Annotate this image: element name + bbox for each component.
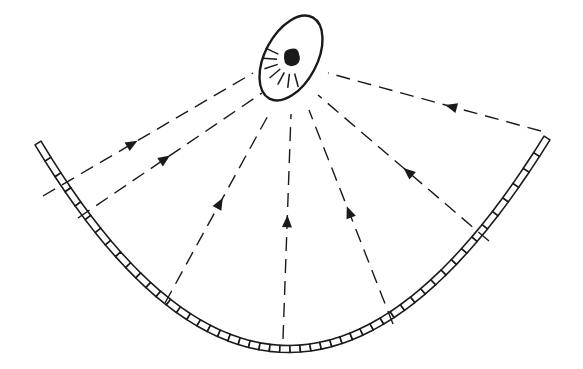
arrow-icon: [445, 103, 458, 113]
source-dash: [270, 69, 281, 78]
reflector-segment: [259, 343, 270, 351]
light-source-icon: [284, 49, 300, 67]
source-dash: [278, 72, 285, 84]
diagram-canvas: [0, 0, 583, 369]
arrow-icon: [125, 141, 138, 151]
reflector-segment: [534, 136, 550, 156]
arrow-icon: [282, 215, 292, 227]
reflector-segment: [290, 345, 300, 352]
reflector-segment: [269, 344, 280, 352]
source-dash: [264, 64, 277, 68]
reflector-diagram: [0, 0, 583, 369]
arrow-icon: [157, 156, 170, 167]
arrow-icon: [213, 198, 223, 211]
arrow-icon: [347, 206, 356, 219]
reflector-segment: [300, 344, 311, 352]
focal-point: [246, 5, 335, 111]
source-dash: [266, 48, 279, 54]
ray-7: [328, 73, 541, 131]
source-dash: [288, 74, 290, 88]
ray-lines: [43, 73, 541, 339]
reflector-segment: [280, 345, 290, 352]
ray-1: [43, 73, 253, 196]
source-dash: [263, 58, 277, 59]
segmented-reflector: [35, 136, 550, 352]
source-dash: [295, 74, 299, 88]
